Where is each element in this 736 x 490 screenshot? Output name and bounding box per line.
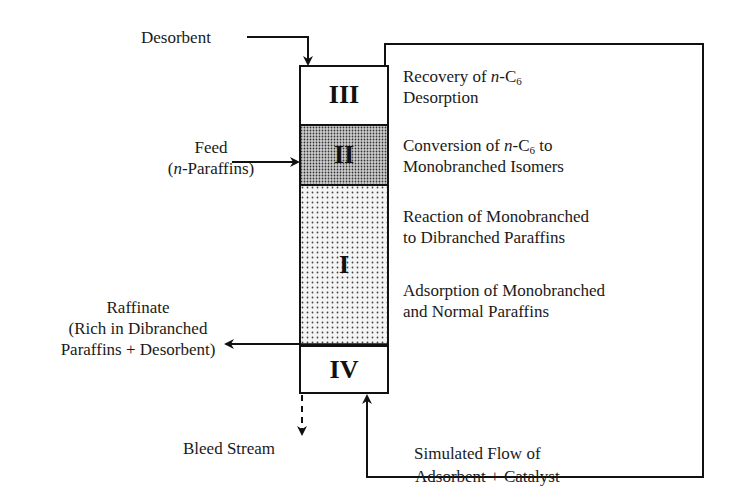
raffinate-label: Raffinate (Rich in Dibranched Paraffins …: [26, 297, 250, 360]
zone-ii-description: Conversion of n-C6 to Monobranched Isome…: [403, 135, 564, 177]
column: [300, 66, 388, 393]
recycle-label-line2: Adsorbent + Catalyst: [415, 466, 560, 487]
zone-label-iv: IV: [300, 355, 388, 385]
feed-label: Feed (n-Paraffins): [148, 137, 274, 179]
zone-i-adsorption-description: Adsorption of Monobranched and Normal Pa…: [403, 280, 605, 322]
zone-label-ii: II: [300, 140, 388, 170]
bleed-stream-label: Bleed Stream: [183, 438, 275, 459]
recycle-label-line1: Simulated Flow of: [414, 443, 541, 464]
zone-iii-description: Recovery of n-C6 Desorption: [403, 66, 522, 108]
recycle-loop: [367, 44, 703, 477]
desorbent-label: Desorbent: [141, 27, 211, 48]
zone-i-reaction-description: Reaction of Monobranched to Dibranched P…: [403, 206, 589, 248]
desorbent-arrow: [247, 37, 308, 64]
process-diagram: [0, 0, 736, 490]
zone-label-i: I: [300, 250, 388, 280]
zone-label-iii: III: [300, 80, 388, 110]
